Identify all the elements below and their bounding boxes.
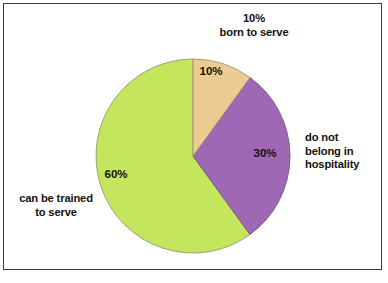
pie-chart-figure: 10% born to serve do not belong in hospi…	[0, 0, 388, 283]
slice-label-can-be-trained-to-serve: can be trained to serve	[4, 192, 108, 219]
slice-label-born-to-serve: 10% born to serve	[188, 12, 320, 39]
slice-label-do-not-belong-in-hospitality: do not belong in hospitality	[305, 131, 385, 172]
slice-value-born-to-serve: 10%	[191, 64, 231, 78]
slice-value-can-be-trained: 60%	[96, 167, 136, 181]
slice-value-do-not-belong: 30%	[245, 146, 285, 160]
